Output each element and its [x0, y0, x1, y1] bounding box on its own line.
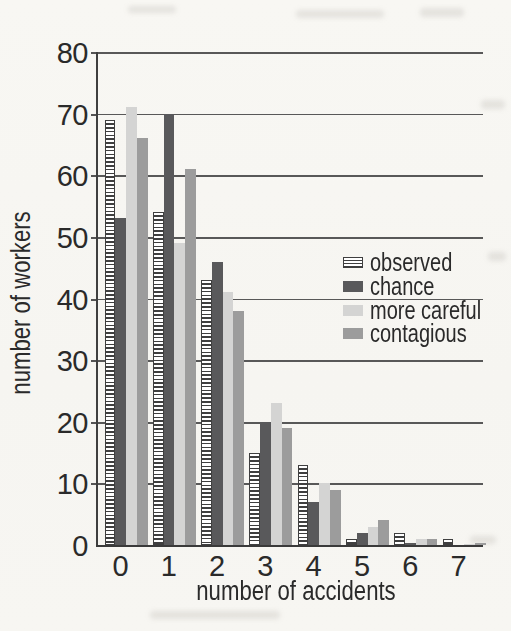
bar-contagious-x0 [137, 138, 148, 545]
accidents-bar-chart: 0102030405060708001234567 number of acci… [0, 0, 511, 631]
gridline-y80 [97, 52, 484, 54]
bar-chance-x4 [308, 502, 319, 545]
bar-contagious-x5 [378, 520, 389, 545]
bar-observed-x6 [394, 533, 405, 545]
bar-more-careful-x4 [319, 483, 330, 545]
legend-row-contagious: contagious [343, 322, 509, 346]
bar-more-careful-x2 [223, 292, 234, 545]
chart-legend: observedchancemore carefulcontagious [343, 251, 509, 346]
bar-chance-x3 [260, 422, 271, 545]
bar-chance-x1 [164, 114, 175, 545]
x-tick-label-0: 0 [104, 552, 138, 580]
bar-contagious-x3 [282, 428, 293, 545]
bar-chance-x2 [212, 262, 223, 545]
gridline-y70 [97, 114, 484, 116]
legend-swatch-contagious [343, 328, 363, 339]
x-axis-title: number of accidents [189, 577, 402, 605]
y-axis-title: number of workers [7, 188, 35, 418]
bar-observed-x4 [298, 465, 309, 545]
y-tick-label-0: 0 [20, 532, 88, 560]
x-axis-line [96, 545, 484, 547]
y-axis-line [96, 52, 98, 547]
legend-label-contagious: contagious [370, 321, 467, 346]
gridline-y60 [97, 175, 484, 177]
bar-contagious-x4 [330, 490, 341, 545]
bar-contagious-x1 [185, 169, 196, 545]
y-tick-label-80: 80 [20, 39, 88, 67]
bar-chance-x0 [115, 218, 126, 545]
bar-chance-x5 [357, 533, 368, 545]
legend-swatch-chance [343, 281, 363, 292]
bar-more-careful-x5 [368, 527, 379, 545]
bar-observed-x3 [249, 453, 260, 545]
bar-more-careful-x0 [126, 107, 137, 545]
bar-observed-x2 [201, 280, 212, 545]
x-tick-label-6: 6 [393, 552, 427, 580]
y-tick-label-10: 10 [20, 470, 88, 498]
x-tick-label-1: 1 [152, 552, 186, 580]
y-tick-label-60: 60 [20, 162, 88, 190]
bar-more-careful-x3 [271, 403, 282, 545]
legend-swatch-observed [343, 257, 363, 268]
legend-swatch-more-careful [343, 305, 363, 316]
bar-observed-x0 [105, 120, 116, 545]
x-tick-label-7: 7 [442, 552, 476, 580]
bar-observed-x1 [153, 212, 164, 545]
y-tick-label-70: 70 [20, 101, 88, 129]
scanned-book-page: 0102030405060708001234567 number of acci… [0, 0, 511, 631]
bar-more-careful-x1 [174, 243, 185, 545]
bar-contagious-x2 [233, 311, 244, 545]
